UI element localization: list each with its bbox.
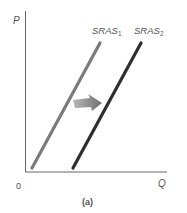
origin-label: 0	[16, 181, 21, 191]
figure-caption: (a)	[82, 197, 93, 207]
x-axis-label: Q	[158, 178, 166, 189]
sras-shift-diagram: P Q 0 SRAS1 SRAS2 (a)	[0, 0, 187, 213]
shift-right-arrow-icon	[73, 94, 102, 111]
sras1-label: SRAS1	[92, 25, 122, 37]
sras2-label: SRAS2	[134, 25, 164, 37]
y-axis-label: P	[13, 15, 20, 26]
